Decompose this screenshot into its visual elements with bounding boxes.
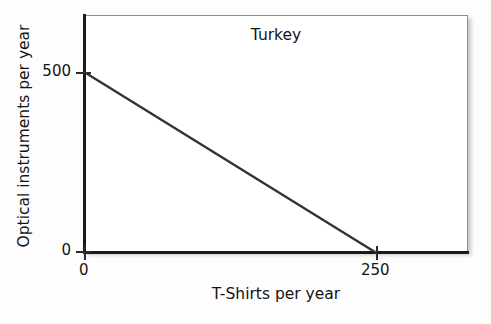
y-tick-label-500: 500 [42,62,71,80]
y-axis-line [83,14,86,254]
plot-area [84,15,468,252]
x-axis-line [83,251,469,254]
y-tick-mark-500 [76,72,91,74]
y-axis-title: Optical instruments per year [15,18,37,255]
x-tick-label-0: 0 [79,261,89,279]
y-tick-label-0: 0 [61,241,71,259]
chart-figure: 500 0 0 250 Optical instruments per year… [0,0,491,324]
x-tick-mark-250 [376,246,378,260]
x-axis-title: T-Shirts per year [84,285,468,303]
x-tick-mark-0 [84,246,86,260]
chart-title: Turkey [84,26,468,44]
x-tick-label-250: 250 [361,261,390,279]
